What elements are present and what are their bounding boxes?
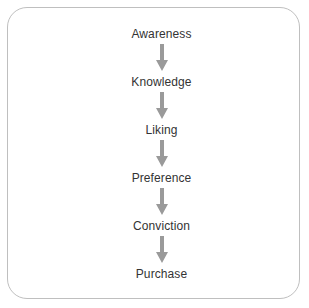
down-arrow-icon — [155, 92, 169, 120]
flow-step-conviction: Conviction — [133, 219, 190, 233]
flow-step-preference: Preference — [132, 171, 192, 185]
flow-step-liking: Liking — [146, 123, 178, 137]
flow-chain: Awareness Knowledge Liking Preference Co… — [0, 0, 309, 308]
flow-step-purchase: Purchase — [136, 267, 188, 281]
diagram-canvas: Awareness Knowledge Liking Preference Co… — [0, 0, 309, 308]
down-arrow-icon — [155, 188, 169, 216]
down-arrow-icon — [155, 140, 169, 168]
down-arrow-icon — [155, 44, 169, 72]
flow-step-knowledge: Knowledge — [131, 75, 191, 89]
flow-step-awareness: Awareness — [131, 27, 191, 41]
down-arrow-icon — [155, 236, 169, 264]
